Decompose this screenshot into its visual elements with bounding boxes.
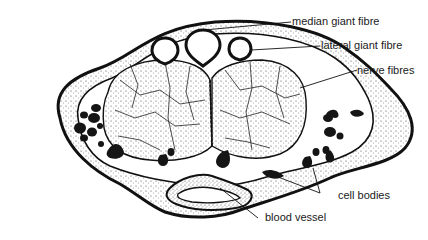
nerve-fibres-region <box>103 60 306 160</box>
label-blood-vessel: blood vessel <box>265 211 326 223</box>
diagram-canvas: median giant fibre lateral giant fibre n… <box>0 0 428 240</box>
label-nerve-fibres: nerve fibres <box>357 64 415 76</box>
label-cell-bodies: cell bodies <box>338 189 390 201</box>
label-lateral-giant-fibre: lateral giant fibre <box>321 39 402 51</box>
nerve-cord-diagram: median giant fibre lateral giant fibre n… <box>0 0 428 240</box>
label-median-giant-fibre: median giant fibre <box>292 15 379 27</box>
